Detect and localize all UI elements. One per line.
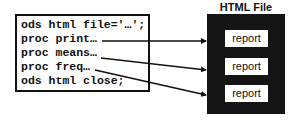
- arrow-means-to-report: [101, 58, 206, 70]
- arrow-freq-to-report: [95, 70, 206, 95]
- connector-arrows: [0, 0, 297, 129]
